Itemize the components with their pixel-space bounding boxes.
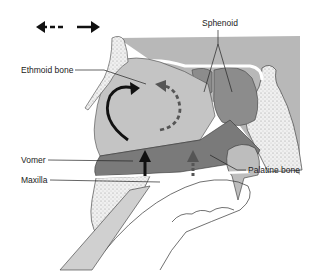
teeth: [172, 207, 234, 222]
label-ethmoid: Ethmoid bone: [21, 65, 73, 75]
label-sphenoid: Sphenoid: [202, 18, 238, 28]
direction-arrows: [36, 21, 100, 33]
nasal-anatomy-diagram: [0, 0, 320, 278]
label-maxilla: Maxilla: [21, 175, 47, 185]
label-vomer: Vomer: [21, 155, 46, 165]
label-palatine: Palatine bone: [248, 165, 300, 175]
